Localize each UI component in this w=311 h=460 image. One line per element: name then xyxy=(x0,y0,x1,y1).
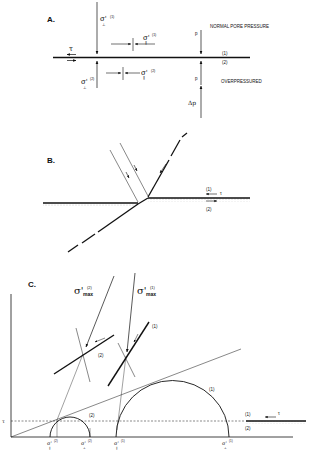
pore-pressure-top-label: p xyxy=(195,31,198,36)
sigma-par-2-label: σ' (2) ∥ xyxy=(141,69,155,80)
layer-2-label: (2) xyxy=(222,60,228,65)
svg-text:∥: ∥ xyxy=(143,75,145,80)
svg-text:(2): (2) xyxy=(87,285,93,290)
panel-a-label: A. xyxy=(47,15,55,24)
axis-label-sigma-par-2: σ' (2) ∥ xyxy=(47,439,58,450)
panel-c: C. τ (2) (1) σ' (2) ∥ σ' (2) ⊥ σ' xyxy=(2,273,306,450)
fault-2-label: (2) xyxy=(98,353,104,358)
sigma-max-1-arrow xyxy=(127,273,135,352)
figure-canvas: A. τ σ' (1) ⊥ σ' (1) ∥ σ' xyxy=(0,0,311,460)
svg-text:(2): (2) xyxy=(54,439,58,443)
sigma-par-1-label: σ' (1) ∥ xyxy=(143,33,156,45)
construction-line-1 xyxy=(117,356,126,430)
pore-pressure-bottom-label: p xyxy=(195,76,198,81)
layer-1-label: (1) xyxy=(222,51,228,56)
svg-text:(2): (2) xyxy=(88,439,92,443)
svg-text:∥: ∥ xyxy=(116,446,118,450)
panel-b-label: B. xyxy=(47,156,55,165)
circle-2-label: (2) xyxy=(89,413,95,418)
svg-text:(2): (2) xyxy=(90,77,94,81)
sigma-perp-2-label: σ' (2) ⊥ xyxy=(81,77,94,90)
inset-layer-1-label: (1) xyxy=(245,412,251,417)
svg-text:⊥: ⊥ xyxy=(102,23,106,27)
inset-tau-label: τ xyxy=(278,411,280,416)
sigma-max-2-label: σ' max (2) xyxy=(74,285,93,297)
sigma-par-2-arrows xyxy=(106,67,140,80)
svg-text:max: max xyxy=(83,291,93,297)
stress-line-2 xyxy=(120,143,148,196)
fault-upper-dash-2 xyxy=(182,133,187,137)
svg-text:σ': σ' xyxy=(81,78,88,86)
fault-lower-dash xyxy=(82,234,95,243)
failure-envelope xyxy=(11,349,241,437)
tau-label: τ xyxy=(69,45,73,53)
svg-text:(1): (1) xyxy=(152,33,156,37)
svg-text:⊥: ⊥ xyxy=(83,86,87,90)
layer-2-label-b: (2) xyxy=(206,207,212,212)
fault-1-label: (1) xyxy=(152,324,158,329)
fault-2 xyxy=(54,335,114,374)
layer-1-label-b: (1) xyxy=(206,187,212,192)
sigma-max-1-label: σ' max (1) xyxy=(137,285,156,297)
panel-c-label: C. xyxy=(28,280,36,289)
axis-label-sigma-par-1: σ' (1) ∥ xyxy=(114,439,125,450)
overpressured-label: OVERPRESSURED xyxy=(221,79,263,84)
svg-text:(2): (2) xyxy=(151,69,155,73)
svg-text:⊥: ⊥ xyxy=(83,446,86,450)
tau-label-b: τ xyxy=(220,191,222,196)
sigma-perp-1-label: σ' (1) ⊥ xyxy=(100,15,114,27)
fault-lower-dash-2 xyxy=(68,245,78,252)
svg-text:⊥: ⊥ xyxy=(224,446,227,450)
circle-1-label: (1) xyxy=(209,387,215,392)
svg-text:max: max xyxy=(146,291,156,297)
tau-axis-label: τ xyxy=(2,418,5,424)
svg-text:(1): (1) xyxy=(150,285,156,290)
normal-pore-pressure-label: NORMAL PORE PRESSURE xyxy=(210,24,269,29)
fault-upper-dash xyxy=(171,140,180,156)
axis-label-sigma-perp-1: σ' (1) ⊥ xyxy=(222,439,233,450)
conjugate-2 xyxy=(76,328,90,382)
axis-label-sigma-perp-2: σ' (2) ⊥ xyxy=(81,439,92,450)
delta-p-label: Δp xyxy=(188,99,196,107)
svg-text:∥: ∥ xyxy=(145,40,147,45)
svg-text:(1): (1) xyxy=(229,439,233,443)
stress-line-1 xyxy=(110,150,138,202)
svg-text:(1): (1) xyxy=(110,15,114,19)
stress-arrow-1-icon xyxy=(126,172,129,178)
svg-text:∥: ∥ xyxy=(49,446,51,450)
fault-1 xyxy=(108,322,149,386)
inset-layer-2-label: (2) xyxy=(245,426,251,431)
svg-text:σ': σ' xyxy=(100,15,107,23)
panel-a: A. τ σ' (1) ⊥ σ' (1) ∥ σ' xyxy=(47,2,269,118)
fault-lower xyxy=(98,204,138,232)
panel-b: B. (1) (2) τ xyxy=(43,133,250,252)
fault-upper xyxy=(148,160,169,197)
svg-text:(1): (1) xyxy=(121,439,125,443)
